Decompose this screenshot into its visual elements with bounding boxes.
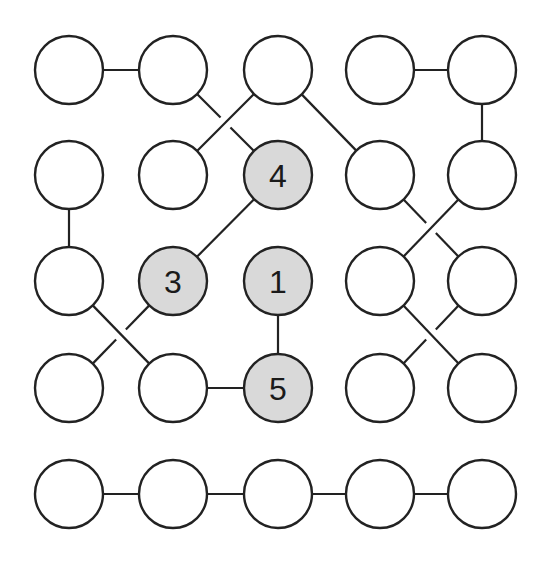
node-r5c1 — [35, 460, 103, 528]
empty-node-circle — [35, 36, 103, 104]
edge-r2c4-r3c5 — [436, 233, 459, 256]
empty-node-circle — [346, 36, 414, 104]
empty-node-circle — [35, 354, 103, 422]
node-r5c2 — [139, 460, 207, 528]
edge-r3c2-r4c1 — [93, 340, 116, 364]
node-r4c4 — [346, 354, 414, 422]
node-r2c5 — [448, 141, 516, 209]
node-r3c1 — [35, 247, 103, 315]
node-r2c4 — [346, 141, 414, 209]
node-r3c3: 1 — [244, 247, 312, 315]
empty-node-circle — [346, 247, 414, 315]
edge-r1c2-r2c3 — [197, 94, 221, 118]
node-r4c3: 5 — [244, 354, 312, 422]
node-r1c2 — [139, 36, 207, 104]
empty-node-circle — [448, 247, 516, 315]
edge-r3c5-r4c4 — [403, 340, 426, 364]
node-r5c4 — [346, 460, 414, 528]
empty-node-circle — [139, 141, 207, 209]
empty-node-circle — [244, 36, 312, 104]
node-r2c3: 4 — [244, 141, 312, 209]
node-r3c2: 3 — [139, 247, 207, 315]
nodes-layer: 4315 — [35, 36, 516, 528]
empty-node-circle — [346, 141, 414, 209]
edge-r1c2-r2c3 — [230, 127, 254, 151]
empty-node-circle — [35, 141, 103, 209]
edge-r1c3-r2c4 — [302, 94, 357, 150]
node-r5c5 — [448, 460, 516, 528]
node-r4c2 — [139, 354, 207, 422]
empty-node-circle — [448, 141, 516, 209]
node-r3c4 — [346, 247, 414, 315]
node-r1c1 — [35, 36, 103, 104]
grid-graph-diagram: 4315 — [0, 0, 554, 563]
node-number-label: 1 — [269, 264, 287, 300]
empty-node-circle — [448, 354, 516, 422]
empty-node-circle — [244, 460, 312, 528]
empty-node-circle — [35, 460, 103, 528]
node-r4c1 — [35, 354, 103, 422]
empty-node-circle — [139, 354, 207, 422]
empty-node-circle — [448, 460, 516, 528]
node-r1c5 — [448, 36, 516, 104]
node-r1c4 — [346, 36, 414, 104]
node-r2c2 — [139, 141, 207, 209]
node-r4c5 — [448, 354, 516, 422]
edge-r3c2-r4c1 — [126, 305, 149, 329]
empty-node-circle — [139, 36, 207, 104]
node-r5c3 — [244, 460, 312, 528]
node-r3c5 — [448, 247, 516, 315]
edge-r2c4-r3c5 — [404, 199, 427, 222]
empty-node-circle — [35, 247, 103, 315]
node-r1c3 — [244, 36, 312, 104]
empty-node-circle — [448, 36, 516, 104]
node-number-label: 5 — [269, 371, 287, 407]
node-number-label: 3 — [164, 264, 182, 300]
empty-node-circle — [139, 460, 207, 528]
node-r2c1 — [35, 141, 103, 209]
edge-r3c5-r4c4 — [436, 306, 459, 330]
empty-node-circle — [346, 460, 414, 528]
empty-node-circle — [346, 354, 414, 422]
node-number-label: 4 — [269, 158, 287, 194]
edge-r2c3-r3c2 — [197, 199, 254, 257]
